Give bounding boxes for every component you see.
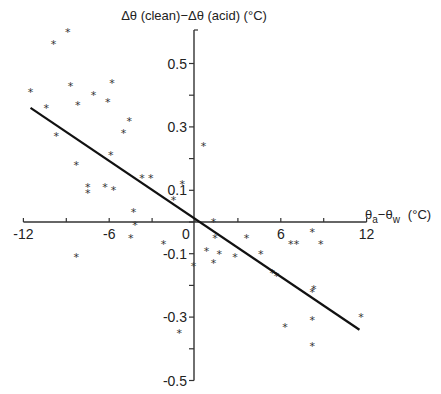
data-point: *	[282, 321, 288, 334]
scatter-chart: -12-60612 0.50.30.1-0.1-0.3-0.5 ********…	[0, 0, 441, 394]
data-point: *	[232, 251, 238, 264]
y-tick-label: -0.1	[163, 246, 187, 262]
y-tick-label: 0.5	[168, 56, 188, 72]
data-point: *	[85, 187, 91, 200]
data-point: *	[91, 89, 97, 102]
y-tick-label: -0.5	[163, 373, 187, 389]
data-point: *	[121, 127, 127, 140]
data-point: *	[75, 99, 81, 112]
data-point: *	[294, 238, 300, 251]
data-point: *	[126, 115, 132, 128]
x-axis-title-minus-theta: −θ	[378, 207, 393, 222]
data-point: *	[109, 77, 115, 90]
data-point: *	[131, 206, 137, 219]
data-point: *	[318, 238, 324, 251]
y-axis-title: Δθ (clean)−Δθ (acid) (°C)	[121, 8, 267, 23]
x-tick-label: -12	[13, 226, 33, 242]
x-tick-label: -6	[103, 226, 116, 242]
y-tick-label: -0.3	[163, 309, 187, 325]
data-point: *	[179, 178, 185, 191]
data-point: *	[310, 226, 316, 239]
data-point: *	[44, 102, 50, 115]
data-point: *	[128, 232, 134, 245]
data-points: ****************************************…	[28, 26, 364, 353]
y-tick-label: 0.3	[168, 119, 188, 135]
data-point: *	[54, 130, 60, 143]
data-point: *	[148, 172, 154, 185]
data-point: *	[111, 184, 117, 197]
data-point: *	[65, 26, 71, 39]
data-point: *	[74, 251, 80, 264]
x-axis-title-unit: (°C)	[408, 207, 431, 222]
data-point: *	[74, 159, 80, 172]
data-point: *	[51, 38, 57, 51]
x-axis-title: θa−θw(°C)	[365, 207, 431, 225]
x-axis-title-sub-w: w	[392, 214, 401, 225]
data-point: *	[244, 232, 250, 245]
data-point: *	[204, 245, 210, 258]
x-tick-label: 6	[277, 226, 285, 242]
data-point: *	[161, 238, 167, 251]
data-point: *	[258, 248, 264, 261]
data-point: *	[105, 96, 111, 109]
data-point: *	[201, 140, 207, 153]
x-tick-label: 12	[359, 226, 375, 242]
data-point: *	[191, 260, 197, 273]
data-point: *	[177, 327, 183, 340]
x-tick-label: 0	[182, 226, 190, 242]
data-point: *	[68, 80, 74, 93]
data-point: *	[28, 86, 34, 99]
x-axis-title-theta-a: θ	[365, 207, 372, 222]
data-point: *	[310, 314, 316, 327]
data-point: *	[102, 181, 108, 194]
data-point: *	[211, 216, 217, 229]
data-point: *	[217, 248, 223, 261]
regression-line	[31, 108, 360, 330]
data-point: *	[310, 340, 316, 353]
data-point: *	[211, 257, 217, 270]
data-point: *	[358, 311, 364, 324]
data-point: *	[132, 219, 138, 232]
